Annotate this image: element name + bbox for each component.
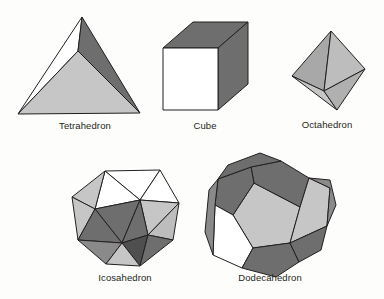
platonic-solids-figure	[0, 0, 384, 299]
label-octahedron: Octahedron	[270, 119, 384, 130]
cube-face-front	[163, 48, 218, 110]
label-cube: Cube	[140, 120, 270, 131]
label-dodecahedron: Dodecahedron	[185, 272, 355, 283]
